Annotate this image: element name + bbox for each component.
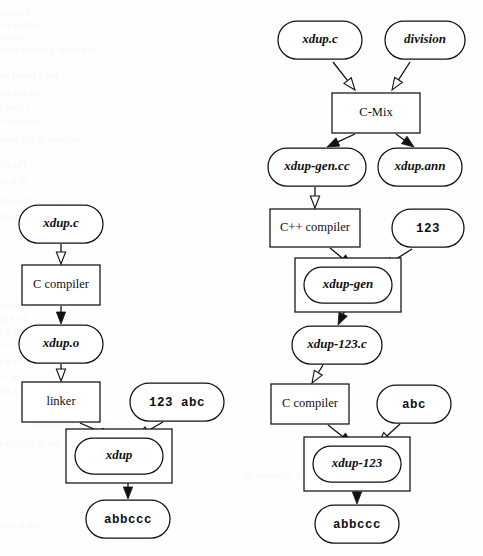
edge-division-to-c-mix <box>392 62 410 90</box>
node-xdup-gen-cc: xdup-gen.cc <box>268 148 366 186</box>
arrowhead-solid-icon <box>56 312 65 324</box>
node-label: abbccc <box>333 518 381 532</box>
edge-xdup-c-left-to-c-compiler-l <box>56 244 65 264</box>
node-label: C-Mix <box>359 105 393 119</box>
arrowhead-hollow-icon <box>310 196 319 208</box>
node-label: abbccc <box>104 513 152 527</box>
arrowhead-solid-icon <box>123 487 132 499</box>
arrowhead-hollow-icon <box>392 77 402 90</box>
arrowhead-solid-icon <box>338 312 347 325</box>
node-label: C++ compiler <box>280 220 351 234</box>
node-division: division <box>385 21 465 59</box>
node-label: xdup-gen.cc <box>283 158 350 173</box>
node-c-compiler-l: C compiler <box>22 265 100 305</box>
arrowhead-hollow-icon <box>56 252 65 264</box>
node-label: abc <box>402 398 426 412</box>
node-xdup-c-left: xdup.c <box>19 205 103 243</box>
edge-c-mix-to-xdup-gen-cc <box>327 134 355 147</box>
figure-canvas: the use was a similar on the mode ofpart… <box>0 0 483 556</box>
node-abc: abc <box>377 385 451 423</box>
node-xdup: xdup <box>66 429 172 483</box>
node-c-mix: C-Mix <box>332 93 420 133</box>
node-label: xdup <box>105 447 133 462</box>
node-label: 123 <box>416 222 440 236</box>
node-cpp-compiler: C++ compiler <box>270 209 360 247</box>
node-label: C compiler <box>282 396 339 410</box>
node-const-123-abc: 123 abc <box>130 383 224 421</box>
node-xdup-ann: xdup.ann <box>378 148 462 186</box>
node-label: xdup.c <box>301 31 338 46</box>
node-group: xdup.cdivisionC-Mixxdup-gen.ccxdup.annC+… <box>19 21 465 543</box>
node-const-123: 123 <box>392 209 464 247</box>
arrowhead-hollow-icon <box>344 78 355 90</box>
node-label: C compiler <box>33 277 90 291</box>
node-label: xdup.ann <box>394 158 446 173</box>
edge-xdup-c-right-to-c-mix <box>333 62 355 90</box>
node-c-compiler-r: C compiler <box>271 384 349 424</box>
node-label: xdup-gen <box>322 276 374 291</box>
node-xdup-gen: xdup-gen <box>295 258 401 312</box>
node-xdup-c-right: xdup.c <box>278 21 362 59</box>
node-label: division <box>404 31 446 46</box>
edge-xdup-o-to-linker <box>56 364 65 381</box>
arrowhead-solid-icon <box>352 492 361 504</box>
node-abbccc-left: abbccc <box>86 500 170 538</box>
node-xdup-123: xdup-123 <box>304 437 410 491</box>
node-xdup-123-c: xdup-123.c <box>292 326 382 364</box>
node-label: xdup-123 <box>331 455 383 470</box>
node-label: xdup.o <box>42 335 80 350</box>
node-label: xdup-123.c <box>306 336 367 351</box>
edge-xdup-123-c-to-c-compiler-r <box>312 365 323 383</box>
node-abbccc-right: abbccc <box>315 505 399 543</box>
node-label: linker <box>46 394 76 408</box>
node-xdup-o: xdup.o <box>19 325 103 363</box>
node-label: 123 abc <box>149 396 205 410</box>
node-label: xdup.c <box>42 215 79 230</box>
arrowhead-hollow-icon <box>56 369 65 381</box>
arrowhead-solid-icon <box>402 136 414 147</box>
node-linker: linker <box>22 382 100 422</box>
process-flow-diagram: xdup.cdivisionC-Mixxdup-gen.ccxdup.annC+… <box>0 0 483 556</box>
edge-xdup-gen-cc-to-cpp-compiler <box>310 187 319 208</box>
edge-c-compiler-l-to-xdup-o <box>56 306 65 324</box>
arrowhead-hollow-icon <box>312 370 322 383</box>
arrowhead-solid-icon <box>327 138 340 147</box>
edge-c-mix-to-xdup-ann <box>396 134 414 147</box>
